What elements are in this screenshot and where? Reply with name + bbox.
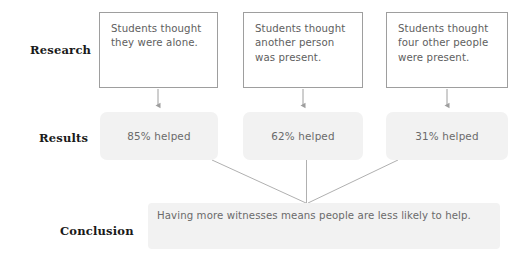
research-box: Students thought another person was pres… xyxy=(243,12,363,88)
results-box: 31% helped xyxy=(386,112,508,160)
results-box: 62% helped xyxy=(243,112,363,160)
row-label-conclusion: Conclusion xyxy=(60,224,134,238)
results-box: 85% helped xyxy=(100,112,218,160)
row-label-results: Results xyxy=(39,131,88,145)
results-box-text: 85% helped xyxy=(127,130,190,142)
row-label-research: Research xyxy=(30,43,91,57)
research-box-text: Students thought four other people were … xyxy=(398,22,497,65)
results-box-text: 31% helped xyxy=(415,130,478,142)
research-box: Students thought they were alone. xyxy=(99,12,218,88)
research-box: Students thought four other people were … xyxy=(386,12,508,88)
conclusion-box-text: Having more witnesses means people are l… xyxy=(157,209,490,224)
results-box-text: 62% helped xyxy=(271,130,334,142)
research-box-text: Students thought they were alone. xyxy=(111,22,207,51)
research-box-text: Students thought another person was pres… xyxy=(255,22,352,65)
line-results-3-to-conclusion xyxy=(308,160,398,203)
conclusion-box: Having more witnesses means people are l… xyxy=(148,203,500,249)
line-results-1-to-conclusion xyxy=(212,160,306,203)
flowchart-diagram: Research Results Conclusion Students tho… xyxy=(0,0,532,259)
